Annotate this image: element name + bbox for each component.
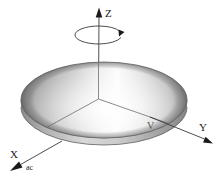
spin-ellipse-icon <box>75 26 121 44</box>
velocity-label: V <box>147 120 155 131</box>
disk-top-rim-shade <box>21 62 187 138</box>
disk-top-face <box>21 62 187 138</box>
acceleration-label: ac <box>26 163 34 172</box>
x-axis-arrowhead-icon <box>10 162 23 172</box>
z-axis-label: Z <box>105 7 112 19</box>
y-axis-label: Y <box>199 121 207 133</box>
x-axis-line <box>18 141 62 166</box>
z-axis-arrowhead-icon <box>96 8 103 18</box>
x-axis-label: X <box>10 148 18 160</box>
diagram-canvas: Z Y X ac V <box>0 0 220 178</box>
y-axis-arrowhead-icon <box>203 137 213 144</box>
spin-arrowhead-icon <box>119 30 125 37</box>
spin-arrow-group <box>75 26 125 44</box>
rotating-disk-figure: Z Y X ac V <box>0 0 220 178</box>
